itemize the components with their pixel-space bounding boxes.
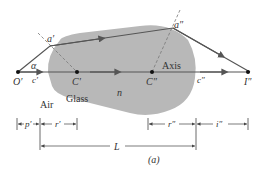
object-point bbox=[16, 70, 20, 74]
glass-label: Glass bbox=[66, 93, 88, 104]
image-point bbox=[246, 70, 250, 74]
c-prime-label: c′ bbox=[32, 75, 39, 85]
object-point-label: O′ bbox=[13, 76, 23, 87]
p-prime-dim-label: p′ bbox=[24, 119, 33, 129]
r-double-prime-dim-label: r″ bbox=[168, 119, 176, 129]
figure-caption: (a) bbox=[148, 154, 160, 166]
point-a1-label: a′ bbox=[47, 33, 55, 44]
image-point-label: I″ bbox=[243, 76, 252, 87]
index-label: n bbox=[117, 87, 122, 98]
lens-diagram: O′ α c′ C′ C″ I″ c″ a′ a″ Axis n Air Gla… bbox=[0, 0, 265, 180]
r-prime-dim-label: r′ bbox=[55, 119, 62, 129]
alpha-label: α bbox=[31, 60, 37, 71]
axis-label: Axis bbox=[162, 60, 181, 71]
air-label: Air bbox=[40, 99, 54, 110]
center-1-label: C′ bbox=[72, 76, 82, 87]
point-a2-label: a″ bbox=[174, 19, 184, 30]
length-dim-label: L bbox=[113, 141, 120, 152]
dimension-ticks bbox=[17, 118, 248, 150]
center-point-2 bbox=[150, 70, 154, 74]
center-2-label: C″ bbox=[146, 76, 158, 87]
dimension-lines bbox=[18, 124, 247, 146]
i-double-prime-dim-label: i″ bbox=[216, 119, 223, 129]
c-double-prime-label: c″ bbox=[197, 75, 205, 85]
center-point-1 bbox=[75, 70, 79, 74]
